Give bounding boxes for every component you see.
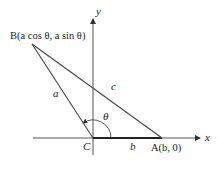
y-axis-label: y bbox=[95, 5, 101, 17]
triangle-diagram: y x B(a cos θ, a sin θ) C A(b, 0) a b c … bbox=[0, 0, 219, 169]
angle-theta-label: θ bbox=[103, 110, 109, 122]
point-c-label: C bbox=[83, 140, 91, 152]
point-a-label: A(b, 0) bbox=[151, 142, 182, 154]
side-c-label: c bbox=[111, 80, 116, 92]
side-b-label: b bbox=[130, 140, 136, 152]
x-axis-label: x bbox=[204, 131, 210, 143]
side-c bbox=[32, 44, 162, 138]
side-a bbox=[32, 44, 93, 138]
point-b-label: B(a cos θ, a sin θ) bbox=[10, 30, 86, 42]
side-a-label: a bbox=[53, 87, 59, 99]
